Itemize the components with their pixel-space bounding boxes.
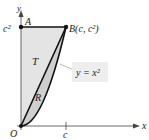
point-o — [19, 124, 23, 128]
diagram-canvas: y c² A B(c, c²) T R y = x² O c x — [0, 0, 149, 140]
point-a-label: A — [24, 16, 32, 27]
point-a — [19, 25, 23, 29]
x-tick-label: c — [63, 129, 68, 140]
curve-label-leader — [60, 64, 74, 70]
point-b — [64, 25, 68, 29]
region-t-label: T — [32, 55, 39, 67]
x-axis-label: x — [141, 120, 147, 131]
curve-label: y = x² — [75, 67, 101, 78]
x-axis-arrow-icon — [133, 124, 140, 129]
point-b-label: B(c, c²) — [69, 23, 99, 35]
origin-label: O — [10, 128, 17, 139]
y-axis-label: y — [16, 3, 21, 13]
y-tick-label: c² — [3, 23, 11, 34]
region-r-label: R — [34, 92, 41, 103]
